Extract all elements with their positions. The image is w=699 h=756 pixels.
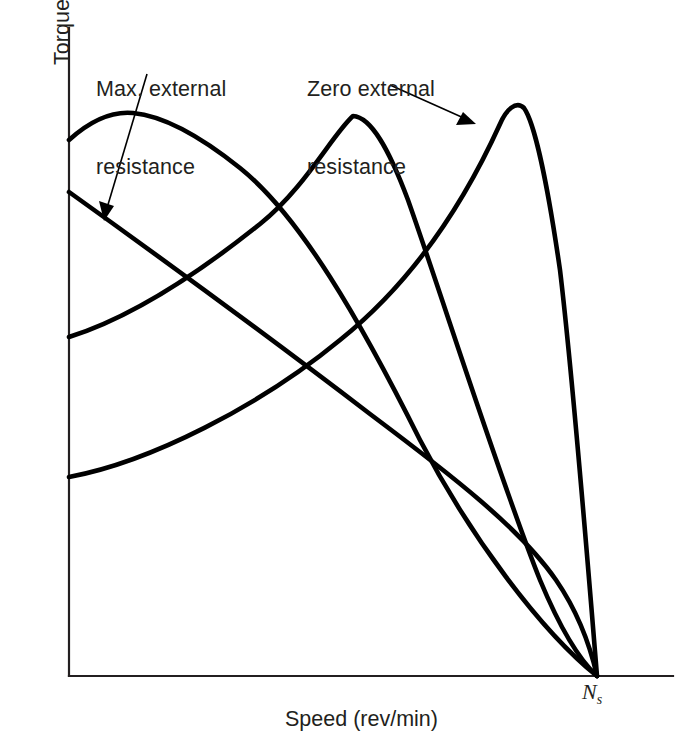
annotation-zero-external-resistance: Zero external resistance xyxy=(307,24,435,232)
annotation-zero-line1: Zero external xyxy=(307,76,435,102)
x-axis-label: Speed (rev/min) xyxy=(285,707,438,732)
annotation-max-external-resistance: Max. external resistance xyxy=(96,24,226,232)
annotation-zero-line2: resistance xyxy=(307,154,435,180)
arrowhead-zero-resistance xyxy=(456,112,476,125)
ns-subscript: s xyxy=(597,692,602,707)
torque-speed-figure: Torque Speed (rev/min) Ns Max. external … xyxy=(0,0,699,756)
ns-main: N xyxy=(582,679,597,704)
x-axis-tick-label-ns: Ns xyxy=(582,679,602,708)
torque-curve-max-resistance xyxy=(69,192,597,676)
annotation-max-line1: Max. external xyxy=(96,76,226,102)
y-axis-label-text: Torque xyxy=(50,0,75,65)
annotation-max-line2: resistance xyxy=(96,154,226,180)
y-axis-label: Torque xyxy=(44,0,80,102)
